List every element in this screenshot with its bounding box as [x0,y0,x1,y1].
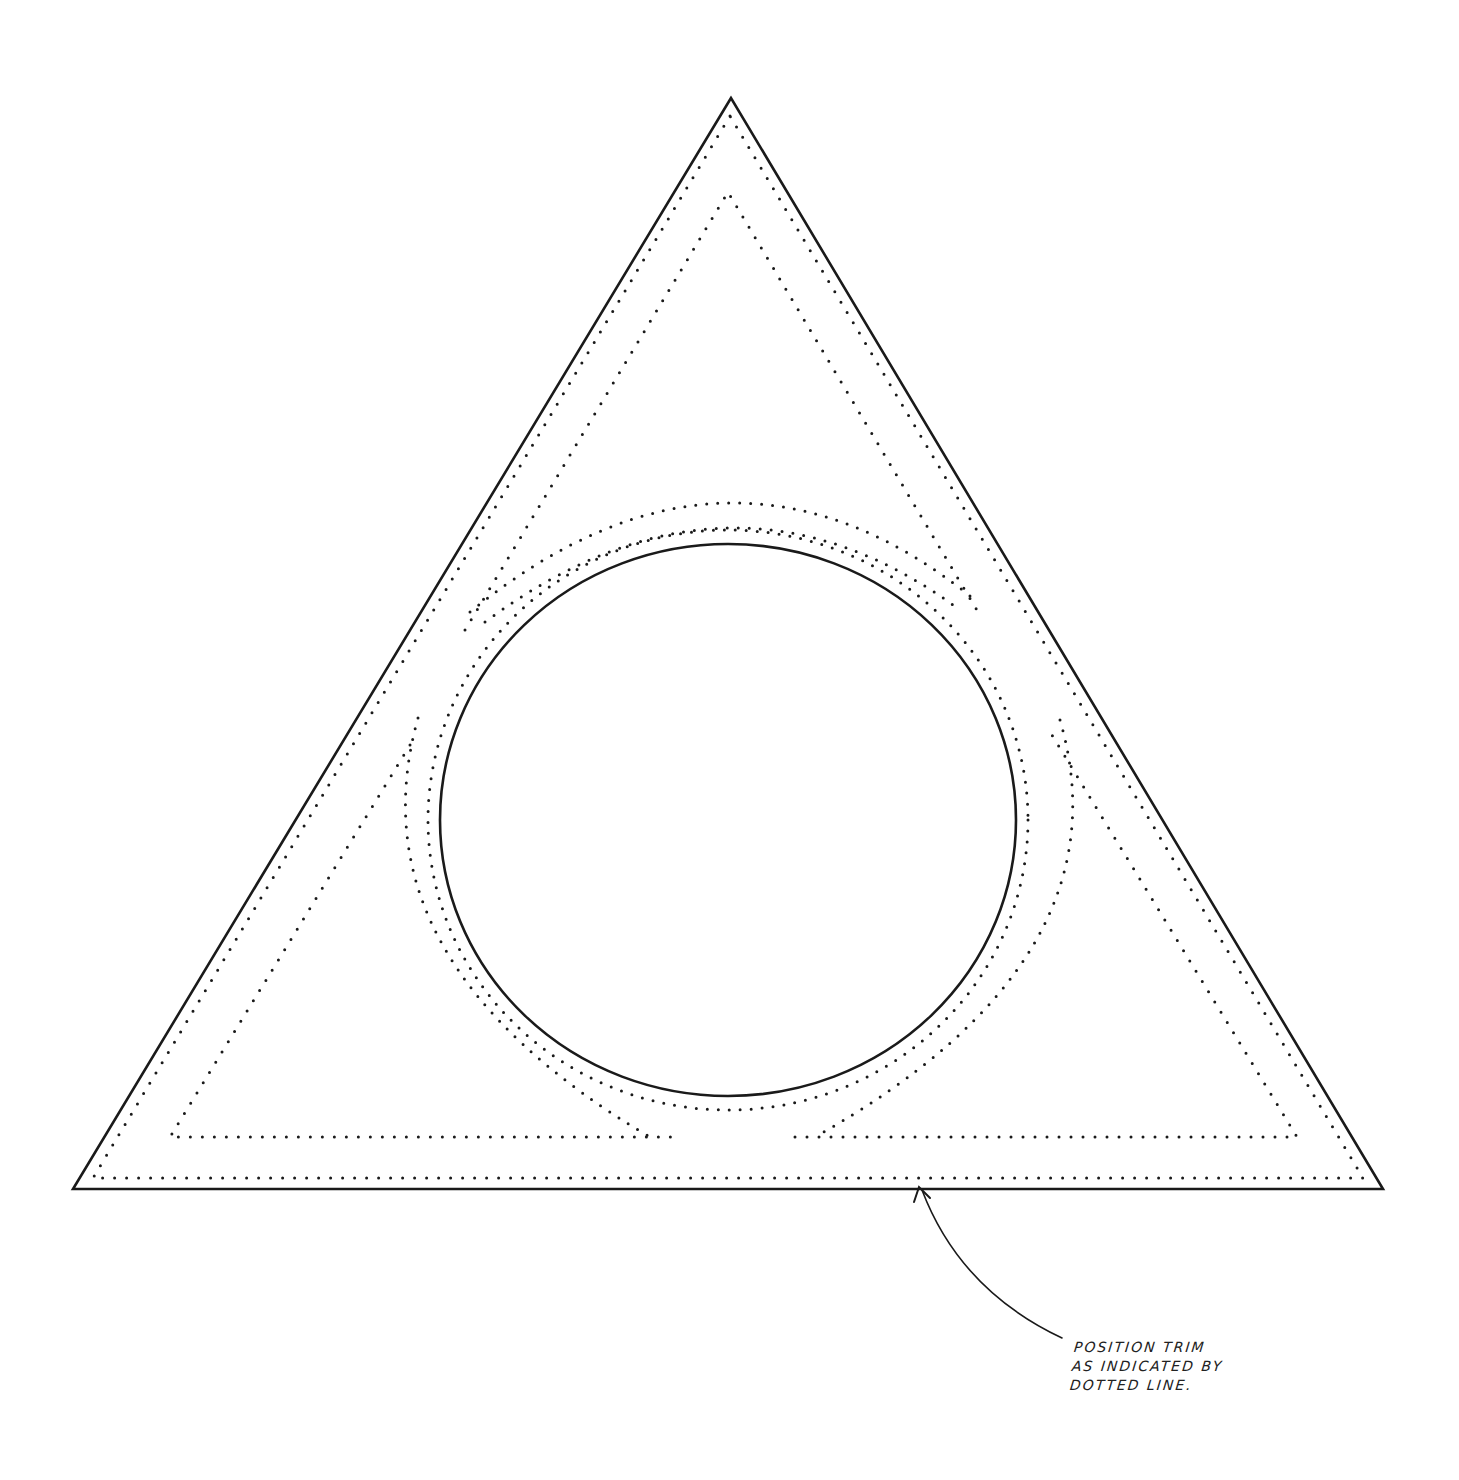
annotation-note: POSITION TRIM AS INDICATED BY DOTTED LIN… [1069,1338,1226,1395]
outer-triangle [73,98,1383,1189]
circle-cutout [440,544,1016,1096]
dotted-arc-right [815,720,1073,1137]
outer-dotted-trim [93,116,1363,1178]
annotation-line-3: DOTTED LINE. [1069,1376,1222,1395]
inner-dotted-right [795,735,1297,1137]
dotted-arc-top-outer [470,503,975,612]
trim-diagram [0,0,1459,1480]
leader-line [922,1190,1062,1338]
dotted-circle-trim [428,530,1028,1110]
annotation-line-1: POSITION TRIM [1073,1338,1226,1357]
annotation-line-2: AS INDICATED BY [1071,1357,1224,1376]
inner-dotted-left [170,745,680,1137]
